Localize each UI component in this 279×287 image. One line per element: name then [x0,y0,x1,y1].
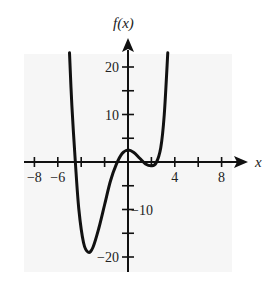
y-axis-arrow-icon [122,38,134,52]
y-tick-label: 10 [105,108,119,123]
y-tick-label: −20 [97,250,119,265]
y-tick-label: 20 [105,60,119,75]
chart: −8−6482010−10−20 f(x) x [0,0,279,287]
y-tick-label: −10 [131,203,153,218]
x-tick-label: −8 [27,170,42,185]
x-tick-label: −6 [50,170,65,185]
x-tick-label: 4 [171,170,178,185]
y-axis-title: f(x) [113,15,134,32]
x-tick-label: 8 [218,170,225,185]
x-axis-title: x [254,154,262,170]
